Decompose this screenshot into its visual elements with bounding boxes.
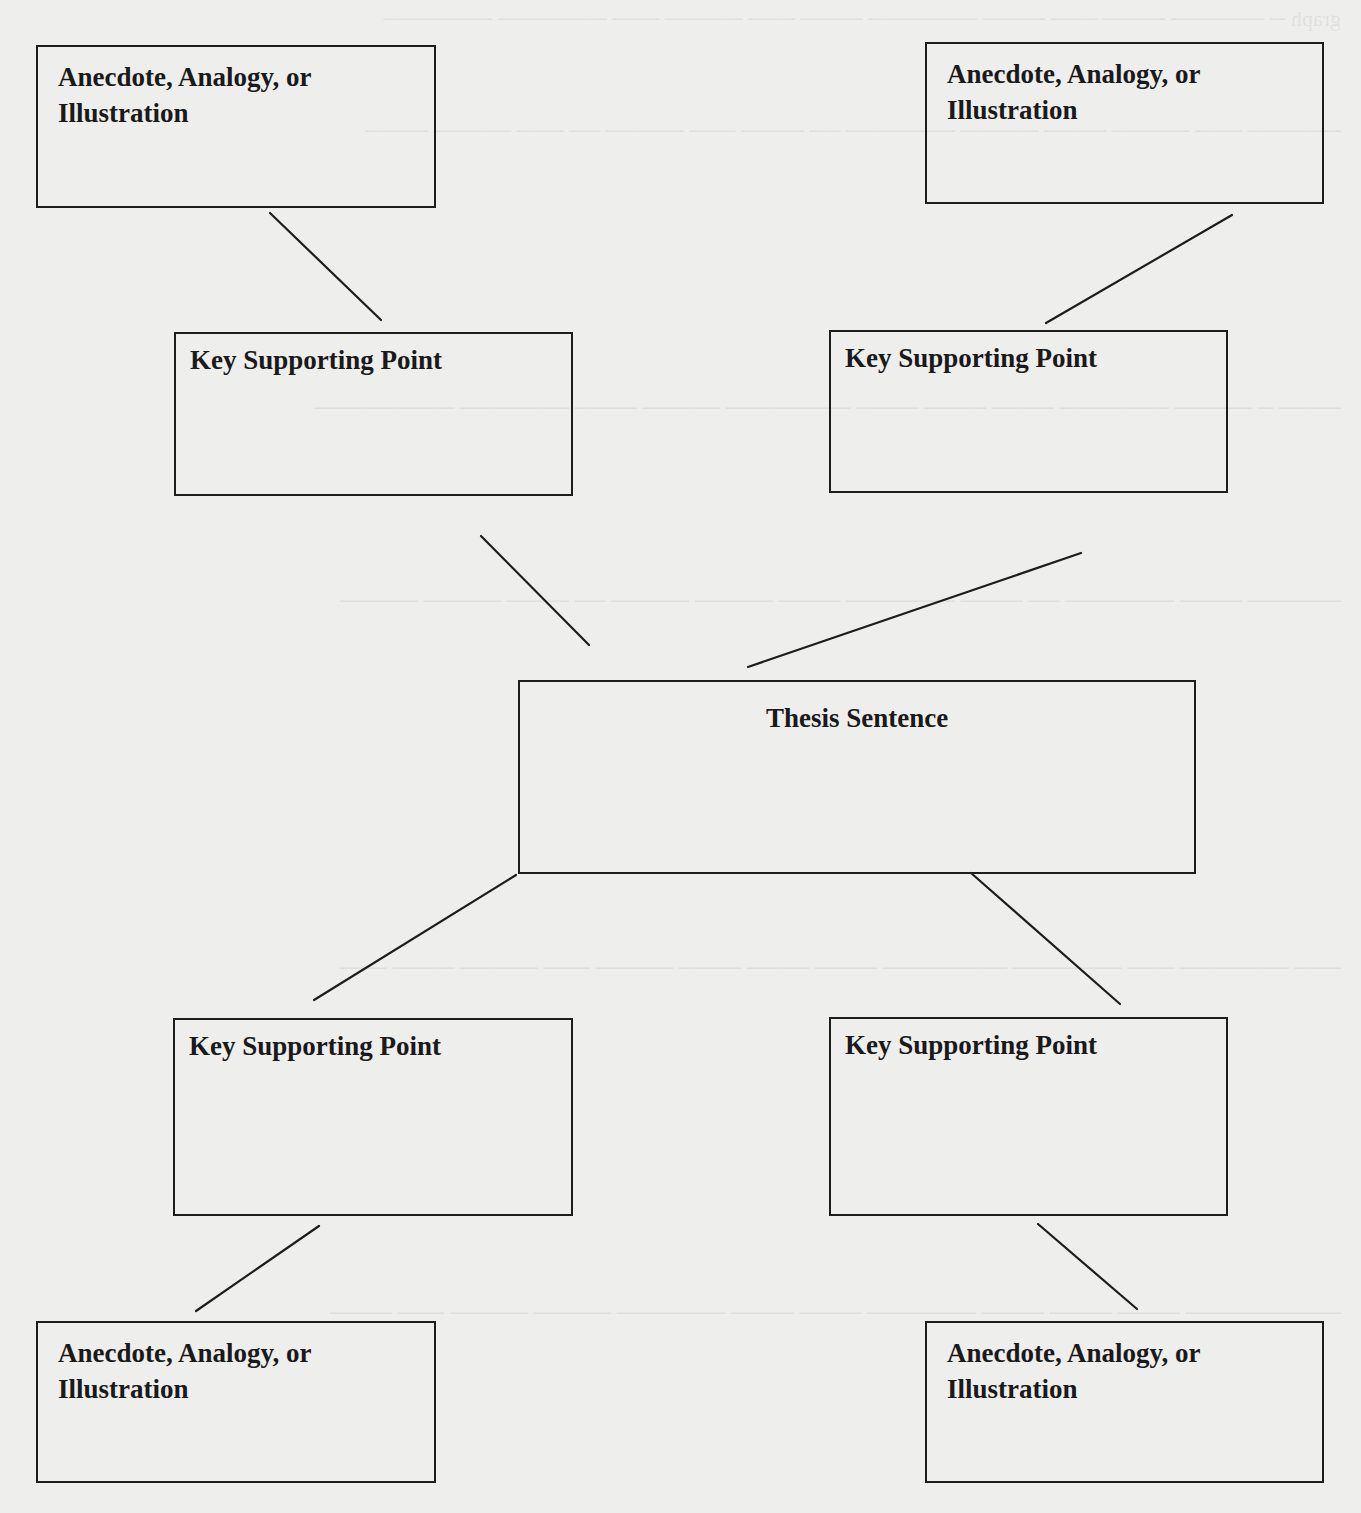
key-point-box-top-right: Key Supporting Point <box>829 330 1228 493</box>
connector-thesis-to-ksp-br <box>971 873 1120 1004</box>
connector-anecdote-tr-to-ksp-tr <box>1046 215 1232 323</box>
anecdote-box-bottom-left: Anecdote, Analogy, or Illustration <box>36 1321 436 1483</box>
anecdote-box-bottom-right: Anecdote, Analogy, or Illustration <box>925 1321 1324 1483</box>
key-point-box-bottom-left: Key Supporting Point <box>173 1018 573 1216</box>
key-point-box-bottom-right: Key Supporting Point <box>829 1017 1228 1216</box>
connector-anecdote-tl-to-ksp-tl <box>270 213 381 320</box>
connector-thesis-to-ksp-bl <box>314 875 516 1000</box>
connector-ksp-tr-to-thesis <box>748 553 1081 667</box>
connector-ksp-br-to-anecdote-br <box>1038 1224 1137 1309</box>
key-point-label: Key Supporting Point <box>189 1028 441 1064</box>
connector-ksp-tl-to-thesis <box>481 536 589 645</box>
key-point-box-top-left: Key Supporting Point <box>174 332 573 496</box>
anecdote-label: Anecdote, Analogy, or Illustration <box>947 56 1287 128</box>
thesis-box: Thesis Sentence <box>518 680 1196 874</box>
key-point-label: Key Supporting Point <box>190 342 442 378</box>
anecdote-box-top-right: Anecdote, Analogy, or Illustration <box>925 42 1324 204</box>
anecdote-label: Anecdote, Analogy, or Illustration <box>947 1335 1287 1407</box>
anecdote-label: Anecdote, Analogy, or Illustration <box>58 1335 398 1407</box>
key-point-label: Key Supporting Point <box>845 340 1097 376</box>
thesis-label: Thesis Sentence <box>520 700 1194 736</box>
anecdote-label: Anecdote, Analogy, or Illustration <box>58 59 398 131</box>
anecdote-box-top-left: Anecdote, Analogy, or Illustration <box>36 45 436 208</box>
key-point-label: Key Supporting Point <box>845 1027 1097 1063</box>
connector-ksp-bl-to-anecdote-bl <box>196 1226 319 1311</box>
